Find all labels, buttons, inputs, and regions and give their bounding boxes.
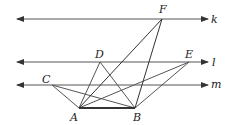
label-point-b: B [132, 111, 141, 124]
label-l: l [212, 56, 216, 69]
segment-bf [135, 19, 162, 108]
geometry-diagram: k l m F D E C A B [0, 0, 229, 125]
segment-bc [52, 85, 135, 108]
label-point-c: C [42, 73, 51, 86]
label-m: m [211, 78, 221, 91]
label-point-d: D [94, 48, 104, 61]
label-point-e: E [184, 48, 193, 61]
label-point-f: F [158, 3, 167, 16]
label-point-a: A [69, 111, 78, 124]
segment-af [79, 19, 162, 108]
label-k: k [211, 13, 218, 26]
